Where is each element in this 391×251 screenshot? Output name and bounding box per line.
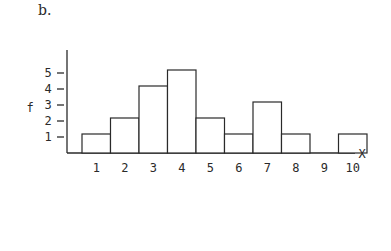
y-tick-label: 1	[44, 130, 51, 144]
x-tick-label: 7	[264, 161, 271, 175]
y-axis-title: f	[26, 101, 33, 115]
histogram-bar	[111, 118, 140, 153]
histogram-bar	[139, 86, 168, 153]
histogram-chart: 12345f12345678910X	[0, 0, 391, 251]
y-tick-label: 5	[44, 66, 51, 80]
histogram-bar	[82, 134, 111, 153]
x-tick-label: 5	[207, 161, 214, 175]
histogram-bar	[168, 70, 197, 153]
histogram-bar	[196, 118, 225, 153]
x-tick-label: 4	[178, 161, 185, 175]
x-tick-label: 6	[235, 161, 242, 175]
x-tick-label: 8	[292, 161, 299, 175]
x-tick-label: 9	[321, 161, 328, 175]
x-axis-title: X	[358, 147, 366, 161]
histogram-bar	[253, 102, 282, 153]
x-tick-label: 1	[93, 161, 100, 175]
histogram-bar	[225, 134, 254, 153]
y-tick-label: 3	[44, 98, 51, 112]
x-tick-label: 10	[346, 161, 360, 175]
x-tick-label: 2	[121, 161, 128, 175]
y-tick-label: 4	[44, 82, 51, 96]
x-tick-label: 3	[150, 161, 157, 175]
y-tick-label: 2	[44, 114, 51, 128]
histogram-bar	[282, 134, 311, 153]
